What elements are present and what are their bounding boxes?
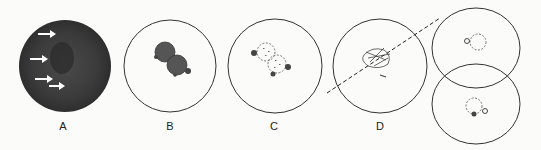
panel-a-cell xyxy=(19,20,111,112)
panel-label-d: D xyxy=(376,120,384,132)
panel-e-daughter-cells xyxy=(432,8,520,144)
panel-label-a: A xyxy=(59,120,66,132)
division-plane-line xyxy=(327,18,440,93)
panel-d-cell xyxy=(327,18,440,113)
panel-b-cell xyxy=(124,20,216,112)
panel-label-c: C xyxy=(270,120,278,132)
panel-c-cell xyxy=(228,19,322,113)
panel-label-b: B xyxy=(166,120,173,132)
